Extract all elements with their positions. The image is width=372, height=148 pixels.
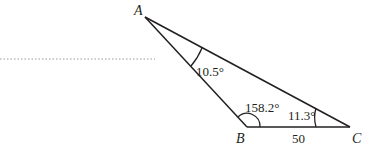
vertex-label-A: A [133, 3, 143, 18]
angle-label-C: 11.3° [288, 108, 315, 123]
triangle-diagram: A B C 10.5° 158.2° 11.3° 50 [0, 0, 372, 148]
angle-label-B: 158.2° [245, 100, 279, 115]
side-label-BC: 50 [292, 131, 305, 146]
vertex-label-B: B [236, 131, 245, 146]
angle-label-A: 10.5° [196, 64, 224, 79]
vertex-label-C: C [352, 131, 362, 146]
